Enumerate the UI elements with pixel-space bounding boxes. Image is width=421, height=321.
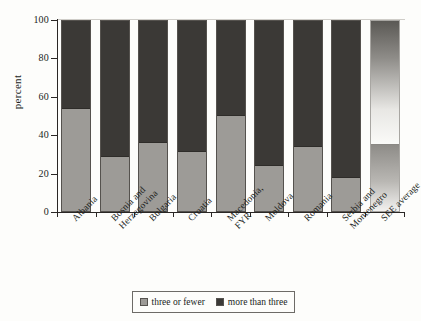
x-tick — [404, 212, 405, 217]
y-tick-label-100: 100 — [23, 15, 49, 25]
x-tick — [327, 212, 328, 217]
x-tick — [57, 212, 58, 217]
y-tick-label-20: 20 — [23, 169, 49, 179]
x-tick — [173, 212, 174, 217]
bar-segment-more-than-three — [101, 21, 129, 156]
y-tick-label-80: 80 — [23, 53, 49, 63]
y-tick-label-60: 60 — [23, 92, 49, 102]
legend-item-three-or-fewer: three or fewer — [140, 297, 205, 307]
y-tick-label-40: 40 — [23, 130, 49, 140]
legend-label-three-or-fewer: three or fewer — [152, 297, 205, 307]
x-tick — [288, 212, 289, 217]
x-tick — [211, 212, 212, 217]
x-tick — [96, 212, 97, 217]
chart-legend: three or fewer more than three — [132, 291, 295, 313]
bar-segment-more-than-three — [62, 21, 90, 108]
legend-swatch-dark-icon — [216, 298, 224, 306]
chart-figure: percent 020406080100 AlbaniaBosnia and H… — [0, 0, 421, 321]
legend-item-more-than-three: more than three — [216, 297, 288, 307]
bar-segment-three-or-fewer — [62, 108, 90, 211]
y-tick-label-0: 0 — [23, 207, 49, 217]
bar-0 — [61, 20, 91, 212]
legend-swatch-light-icon — [140, 298, 148, 306]
legend-label-more-than-three: more than three — [228, 297, 288, 307]
bar-segment-more-than-three — [139, 21, 167, 142]
bar-segment-more-than-three — [217, 21, 245, 115]
